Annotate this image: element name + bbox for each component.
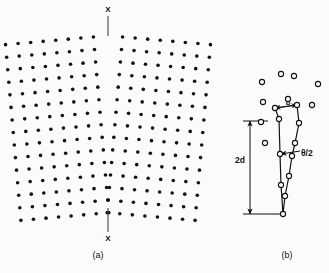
lattice-dot <box>68 202 72 206</box>
lattice-dot <box>89 149 93 153</box>
lattice-dot <box>170 191 174 195</box>
lattice-dot <box>188 130 192 134</box>
lattice-dot <box>45 77 49 81</box>
lattice-dot <box>170 52 174 56</box>
lattice-dot <box>160 165 164 169</box>
lattice-dot <box>164 115 168 119</box>
lattice-dot <box>146 37 150 41</box>
lattice-dot <box>5 55 9 59</box>
lattice-dot <box>95 73 99 77</box>
lattice-dot <box>75 138 79 142</box>
lattice-dot <box>127 112 131 116</box>
lattice-dot <box>67 189 71 193</box>
lattice-dot <box>191 104 195 108</box>
lattice-dot <box>139 113 143 117</box>
lattice-dot <box>10 118 14 122</box>
lattice-dot <box>129 86 133 90</box>
lattice-dot <box>93 48 97 52</box>
lattice-dot <box>152 114 156 118</box>
lattice-dot <box>91 174 95 178</box>
atom-circle <box>285 96 290 101</box>
lattice-dot <box>166 102 170 106</box>
lattice-dot <box>204 93 208 97</box>
lattice-dot <box>110 161 114 165</box>
lattice-dot <box>133 188 137 192</box>
lattice-dot <box>55 51 59 55</box>
lattice-dot <box>145 50 149 54</box>
lattice-dot <box>76 150 80 154</box>
lattice-dot <box>193 79 197 83</box>
atom-circle <box>296 120 301 125</box>
lattice-dot <box>18 206 22 210</box>
lattice-dot <box>181 66 185 70</box>
lattice-dot <box>156 64 160 68</box>
atom-circle <box>272 105 277 110</box>
lattice-dot <box>155 76 159 80</box>
lattice-dot <box>29 41 33 45</box>
lattice-dot <box>115 98 119 102</box>
lattice-dot <box>195 54 199 58</box>
lattice-dot <box>125 137 129 141</box>
lattice-dot <box>133 36 137 40</box>
lattice-dot <box>205 80 209 84</box>
lattice-dot <box>46 90 50 94</box>
lattice-dot <box>31 66 35 70</box>
lattice-dot <box>67 37 71 41</box>
lattice-dot <box>90 162 94 166</box>
lattice-dot <box>44 65 48 69</box>
lattice-dot <box>109 173 113 177</box>
lattice-dot <box>74 125 78 129</box>
lattice-dot <box>20 79 24 83</box>
lattice-dot <box>52 165 56 169</box>
lattice-dot <box>184 41 188 45</box>
lattice-dot <box>175 141 179 145</box>
lattice-dot <box>104 173 108 177</box>
lattice-dot <box>176 128 180 132</box>
lattice-dot <box>179 91 183 95</box>
lattice-dot <box>33 91 37 95</box>
lattice-dot <box>17 193 21 197</box>
lattice-dot <box>6 68 10 72</box>
lattice-dot <box>56 203 60 207</box>
atom-circle <box>260 99 265 104</box>
lattice-dot <box>50 140 54 144</box>
label-theta-half: θ/2 <box>301 148 313 158</box>
lattice-dot <box>180 78 184 82</box>
lattice-dot <box>112 136 116 140</box>
lattice-dot <box>24 130 28 134</box>
lattice-dot <box>41 179 45 183</box>
lattice-dot <box>142 88 146 92</box>
lattice-dot <box>25 142 29 146</box>
lattice-dot <box>35 116 39 120</box>
lattice-dot <box>64 151 68 155</box>
lattice-dot <box>9 106 13 110</box>
lattice-dot <box>17 54 21 58</box>
atom-circle <box>262 140 267 145</box>
lattice-dot <box>22 104 26 108</box>
lattice-dot <box>47 102 51 106</box>
lattice-dot <box>203 106 207 110</box>
lattice-dot <box>92 35 96 39</box>
lattice-dot <box>157 51 161 55</box>
lattice-dot <box>44 216 48 220</box>
lattice-dot <box>28 180 32 184</box>
lattice-dot <box>158 190 162 194</box>
lattice-dot <box>39 154 43 158</box>
lattice-dot <box>153 101 157 105</box>
lattice-dot <box>59 101 63 105</box>
lattice-dot <box>26 155 30 159</box>
atom-circle <box>294 102 299 107</box>
lattice-dot <box>19 219 23 223</box>
lattice-dot <box>48 115 52 119</box>
label-2d: 2d <box>235 155 245 165</box>
lattice-dot <box>173 166 177 170</box>
lattice-dot <box>66 177 70 181</box>
lattice-dot <box>54 38 58 42</box>
lattice-dot <box>40 166 44 170</box>
lattice-dot <box>136 150 140 154</box>
lattice-dot <box>120 48 124 52</box>
tilt-boundary-figure: X X (a) 2d b <box>0 0 329 273</box>
lattice-dot <box>32 78 36 82</box>
lattice-dot <box>88 137 92 141</box>
lattice-dot <box>182 205 186 209</box>
